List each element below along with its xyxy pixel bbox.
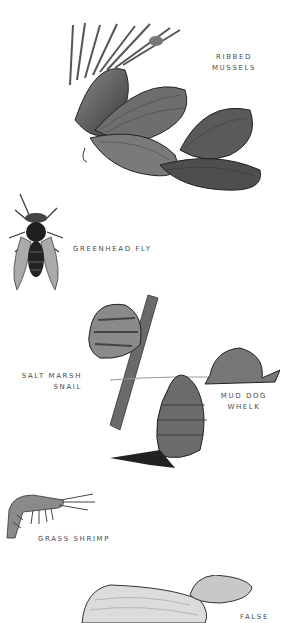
shell-icon [80, 575, 255, 623]
grass-shrimp-illustration [3, 490, 98, 540]
false-shell-illustration [80, 575, 255, 623]
ribbed-mussels-illustration [55, 20, 265, 200]
greenhead-fly-illustration [5, 192, 67, 292]
greenhead-fly-icon [5, 192, 67, 292]
label-greenhead-fly: GREENHEAD FLY [73, 244, 152, 255]
label-mud-dog-whelk: MUD DOG WHELK [212, 391, 276, 413]
label-false: FALSE [240, 612, 269, 623]
snails-icon [80, 290, 280, 470]
label-salt-marsh-snail: SALT MARSH SNAIL [20, 371, 82, 393]
label-grass-shrimp: GRASS SHRIMP [38, 534, 110, 545]
label-ribbed-mussels: RIBBED MUSSELS [200, 52, 268, 74]
grass-shrimp-icon [3, 490, 98, 540]
ribbed-mussels-icon [55, 20, 265, 200]
snails-illustration [80, 290, 280, 470]
